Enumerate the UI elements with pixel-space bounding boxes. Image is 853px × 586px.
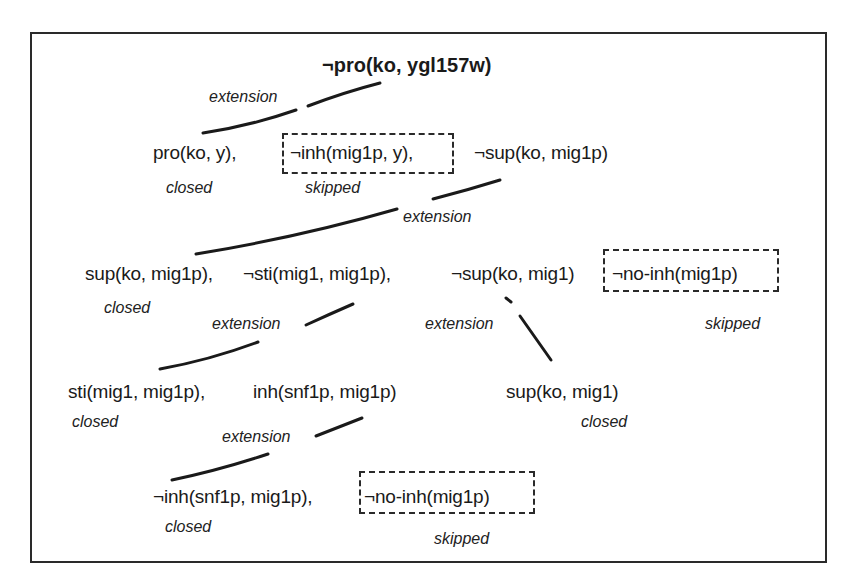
literal-not-no-inh-mig1p: ¬no-inh(mig1p): [364, 487, 490, 506]
edge-label-extension: extension: [403, 209, 472, 225]
literal-not-sup-ko-mig1p: ¬sup(ko, mig1p): [474, 143, 608, 162]
edge-label-extension: extension: [212, 316, 281, 332]
literal-sup-ko-mig1: sup(ko, mig1): [506, 382, 619, 401]
literal-not-inh-snf1p-mig1p: ¬inh(snf1p, mig1p),: [153, 487, 312, 506]
status-skipped: skipped: [434, 531, 489, 547]
status-closed: closed: [165, 519, 211, 535]
status-closed: closed: [166, 180, 212, 196]
literal-not-no-inh-mig1p: ¬no-inh(mig1p): [612, 264, 738, 283]
edge-label-extension: extension: [222, 429, 291, 445]
literal-not-sup-ko-mig1: ¬sup(ko, mig1): [451, 264, 574, 283]
root-literal: ¬pro(ko, ygl157w): [322, 55, 492, 75]
literal-pro-ko-y: pro(ko, y),: [153, 143, 236, 162]
status-skipped: skipped: [705, 316, 760, 332]
literal-sti-mig1-mig1p: sti(mig1, mig1p),: [68, 382, 205, 401]
edge-label-extension: extension: [425, 316, 494, 332]
status-skipped: skipped: [305, 180, 360, 196]
status-closed: closed: [104, 300, 150, 316]
literal-not-sti-mig1-mig1p: ¬sti(mig1, mig1p),: [243, 264, 391, 283]
edge-label-extension: extension: [209, 89, 278, 105]
status-closed: closed: [72, 414, 118, 430]
status-closed: closed: [581, 414, 627, 430]
literal-sup-ko-mig1p: sup(ko, mig1p),: [85, 264, 213, 283]
literal-inh-snf1p-mig1p: inh(snf1p, mig1p): [253, 382, 396, 401]
diagram-canvas: ¬pro(ko, ygl157w) extension pro(ko, y), …: [0, 0, 853, 586]
literal-not-inh-mig1p-y: ¬inh(mig1p, y),: [290, 143, 413, 162]
